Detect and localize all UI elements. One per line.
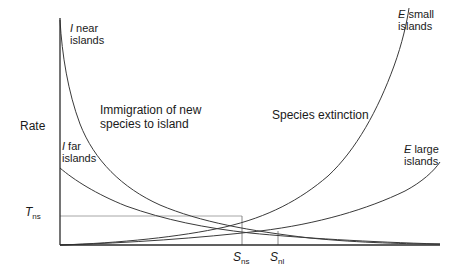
plot-canvas xyxy=(0,0,459,275)
immigration-region-label: Immigration of new species to island xyxy=(100,103,201,131)
i-far-islands-label: I far islands xyxy=(62,140,96,164)
island-biogeography-figure: Rate Tns Sns Snl Immigration of new spec… xyxy=(0,0,459,275)
snl-subscript: nl xyxy=(278,257,284,266)
snl-tick-label: Snl xyxy=(270,250,284,266)
i-near-islands-label: I near islands xyxy=(70,22,104,46)
y-axis-label: Rate xyxy=(20,119,45,133)
sns-subscript: ns xyxy=(241,257,249,266)
sns-tick-label: Sns xyxy=(233,250,249,266)
snl-symbol: S xyxy=(270,250,278,264)
tns-tick-label: Tns xyxy=(25,205,41,221)
extinction-region-label: Species extinction xyxy=(272,108,369,122)
curve-e-large-islands xyxy=(60,162,440,245)
e-small-islands-label: E small islands xyxy=(398,8,434,32)
i-far-text: far islands xyxy=(62,140,96,164)
curve-i-near-islands xyxy=(60,20,440,244)
e-large-islands-label: E large islands xyxy=(404,143,439,167)
sns-symbol: S xyxy=(233,250,241,264)
tns-subscript: ns xyxy=(32,212,40,221)
i-near-text: near islands xyxy=(70,22,104,46)
